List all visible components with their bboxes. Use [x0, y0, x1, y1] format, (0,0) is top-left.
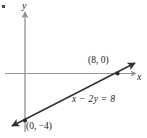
- x-axis-label: x: [137, 72, 141, 82]
- y-axis-label: y: [22, 1, 26, 11]
- page-speck-artifact: [2, 5, 5, 8]
- graph-canvas: [0, 0, 147, 138]
- point-label-x-intercept: (8, 0): [88, 56, 109, 66]
- equation-label: x − 2y = 8: [72, 95, 115, 105]
- point-label-y-intercept: (0, −4): [26, 122, 52, 132]
- coordinate-graph-figure: y x (8, 0) (0, −4) x − 2y = 8: [0, 0, 147, 138]
- point-marker-8-0: [115, 71, 119, 75]
